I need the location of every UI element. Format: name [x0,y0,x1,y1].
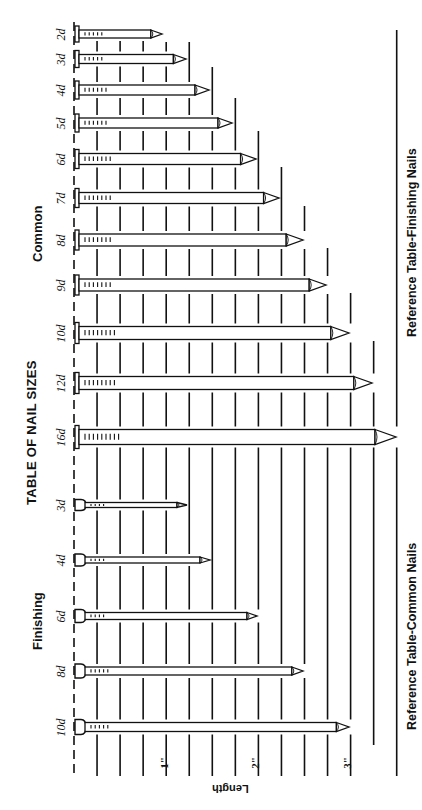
section-label-finishing: Finishing [30,592,45,650]
nail-label-finishing-3d: 3d [54,500,69,512]
nail-finishing-3d [75,500,187,511]
nail-label-common-10d: 10d [54,325,69,343]
nail-label-common-16d: 16d [54,429,69,447]
nail-label-common-3d: 3d [54,54,69,66]
nail-common-9d [75,275,326,295]
nail-label-finishing-8d: 8d [54,666,69,678]
reference-table-common-label: Reference Table-Common Nails [405,543,419,730]
nail-common-10d [75,323,349,344]
nail-common-12d [75,373,372,394]
nail-label-common-9d: 9d [54,280,69,292]
tick-label-2in: 2" [249,757,261,769]
nail-label-common-4d: 4d [54,85,69,97]
nail-size-diagram: TABLE OF NAIL SIZES Common Finishing Ref… [0,0,422,810]
nail-finishing-4d [75,554,210,566]
nail-label-common-7d: 7d [54,193,69,205]
tick-label-3in: 3" [341,757,353,769]
nail-common-2d [75,26,162,42]
nail-label-finishing-4d: 4d [54,555,69,567]
nail-label-common-5d: 5d [54,118,69,130]
nail-common-5d [75,114,232,132]
nail-label-finishing-10d: 10d [54,719,69,737]
nail-finishing-6d [75,610,257,623]
nail-common-3d [75,51,186,68]
nail-label-common-6d: 6d [54,154,69,166]
reference-table-finishing-label: Reference Table-Finishing Nails [405,148,419,337]
nail-label-finishing-6d: 6d [54,611,69,623]
nail-common-6d [75,150,256,169]
tick-label-1in: 1" [158,757,170,769]
nail-finishing-10d [75,720,349,735]
nail-common-16d [75,426,396,449]
nail-common-7d [75,189,279,208]
nail-finishing-8d [75,664,303,678]
nail-label-common-12d: 12d [54,375,69,393]
nail-common-4d [75,81,209,99]
nail-label-common-8d: 8d [54,235,69,247]
axis-label-length: Length [212,783,249,795]
diagram-title: TABLE OF NAIL SIZES [24,360,39,505]
nail-common-8d [75,230,303,250]
section-label-common: Common [30,206,45,262]
nail-label-common-2d: 2d [54,29,69,41]
